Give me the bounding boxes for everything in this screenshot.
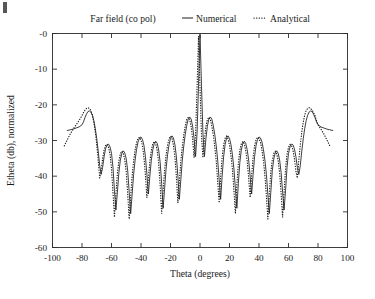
x-tick-label: -80	[76, 253, 89, 263]
chart-legend: Far field (co pol)NumericalAnalytical	[90, 13, 310, 25]
x-tick-label: -20	[164, 253, 177, 263]
y-tick-label: -50	[35, 207, 48, 217]
y-tick-label: -0	[39, 29, 47, 39]
y-tick-label: -20	[35, 100, 48, 110]
y-axis-title: Etheta (db), normalized	[5, 95, 17, 186]
far-field-chart-figure: Far field (co pol)NumericalAnalytical -1…	[0, 0, 375, 299]
y-tick-label: -30	[35, 136, 48, 146]
page-edge-artifact	[3, 2, 7, 13]
y-tick-label: -40	[35, 171, 48, 181]
x-tick-label: 80	[313, 253, 323, 263]
chart-title: Far field (co pol)	[90, 13, 155, 25]
x-tick-label: 0	[198, 253, 203, 263]
x-tick-label: 20	[225, 253, 235, 263]
series-numerical	[67, 35, 333, 214]
x-tick-label: 40	[254, 253, 264, 263]
x-tick-label: -100	[44, 253, 61, 263]
y-tick-label: -10	[35, 64, 48, 74]
legend-label-numerical: Numerical	[196, 13, 237, 24]
x-axis-title: Theta (degrees)	[170, 268, 230, 280]
chart-series	[64, 35, 332, 219]
legend-label-analytical: Analytical	[270, 13, 310, 24]
x-tick-label: 60	[284, 253, 294, 263]
x-tick-label: -40	[135, 253, 148, 263]
x-tick-label: 100	[341, 253, 355, 263]
x-tick-label: -60	[105, 253, 118, 263]
y-tick-label: -60	[35, 243, 48, 253]
far-field-plot: Far field (co pol)NumericalAnalytical -1…	[0, 0, 375, 299]
